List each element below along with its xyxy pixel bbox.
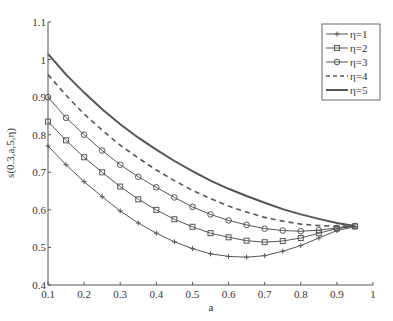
series-line [48,54,355,226]
legend-label: η=3 [350,56,368,68]
x-axis-label: a [209,301,214,313]
y-axis-label: s(0.3,a,5,η) [4,128,17,178]
y-tick-label: 0.6 [32,204,46,216]
x-tick-label: 0.9 [330,288,344,300]
series-line [48,75,355,227]
y-tick-label: 1 [41,54,47,66]
series-2 [46,119,358,245]
legend-label: η=4 [350,70,368,82]
y-tick-label: 0.5 [32,241,46,253]
legend: η=1η=2η=3η=4η=5 [322,24,380,100]
series-5 [48,54,355,226]
x-tick-label: 0.2 [77,288,91,300]
series-line [48,97,355,231]
x-tick-label: 0.4 [149,288,163,300]
legend-label: η=1 [350,28,367,40]
x-tick-label: 0.8 [294,288,308,300]
series-1 [46,143,358,259]
x-tick-label: 0.6 [222,288,236,300]
y-tick-label: 1.1 [32,16,46,28]
legend-label: η=2 [350,42,367,54]
series-line [48,146,355,257]
y-tick-label: 0.4 [32,279,46,291]
y-tick-label: 0.9 [32,91,46,103]
data-series [45,54,358,260]
legend-label: η=5 [350,84,368,96]
x-tick-label: 0.7 [258,288,272,300]
series-4 [48,75,355,227]
x-tick-label: 1 [370,288,376,300]
x-tick-label: 0.5 [186,288,200,300]
line-chart: 0.10.20.30.40.50.60.70.80.910.40.50.60.7… [0,0,393,321]
x-tick-label: 0.3 [113,288,127,300]
y-tick-label: 0.7 [32,166,46,178]
y-tick-label: 0.8 [32,129,46,141]
